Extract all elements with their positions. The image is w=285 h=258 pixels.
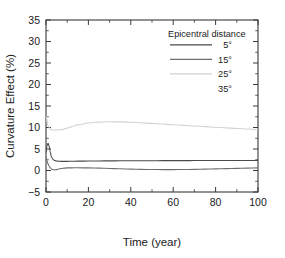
y-tick-label: 25 [28, 57, 40, 69]
legend-label-5deg: 5° [223, 40, 232, 50]
y-tick-label: −5 [28, 186, 40, 198]
y-tick-label: 10 [28, 121, 40, 133]
x-axis-title: Time (year) [123, 236, 182, 248]
y-tick-label: 5 [34, 143, 40, 155]
chart-legend: Epicentral distance 5°15°25°35° [168, 29, 246, 94]
x-tick-label: 20 [83, 196, 95, 208]
series-line-15deg [46, 157, 258, 170]
legend-title: Epicentral distance [168, 29, 246, 39]
y-tick-label: 35 [28, 14, 40, 26]
legend-label-35deg: 35° [218, 84, 232, 94]
y-tick-label: 15 [28, 100, 40, 112]
series-line-25deg [46, 116, 258, 130]
x-tick-label: 60 [167, 196, 179, 208]
y-tick-label: 30 [28, 35, 40, 47]
x-tick-label: 40 [125, 196, 137, 208]
legend-label-15deg: 15° [218, 55, 232, 65]
y-tick-label: 0 [34, 164, 40, 176]
data-series-group [46, 116, 258, 170]
y-axis-title: Curvature Effect (%) [4, 54, 16, 158]
x-tick-label: 0 [43, 196, 49, 208]
y-tick-label: 20 [28, 78, 40, 90]
x-axis-ticks: 020406080100 [43, 20, 267, 208]
series-line-5deg [46, 143, 258, 161]
chart-figure: −505101520253035 020406080100 Time (year… [0, 0, 285, 258]
curvature-effect-line-chart: −505101520253035 020406080100 Time (year… [0, 0, 285, 258]
x-tick-label: 80 [210, 196, 222, 208]
legend-label-25deg: 25° [218, 69, 232, 79]
x-tick-label: 100 [249, 196, 267, 208]
